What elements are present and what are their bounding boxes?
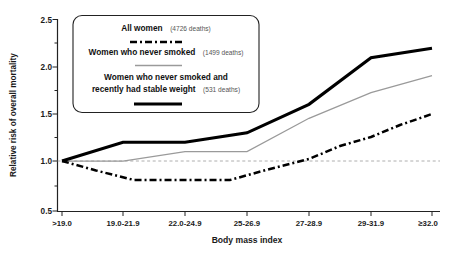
x-axis-ticks (62, 212, 432, 217)
x-tick-label-5: 29-31.9 (358, 219, 385, 228)
chart-legend: All women (4726 deaths) Women who never … (73, 16, 259, 113)
x-tick-label-3: 25-26.9 (234, 219, 261, 228)
legend-label-stable-weight-line1: Women who never smoked and (104, 72, 228, 82)
x-axis-title: Body mass index (212, 235, 283, 245)
series-line-all-women (62, 114, 432, 180)
x-tick-label-2: 22.0-24.9 (169, 219, 203, 228)
legend-count-stable-weight: (531 deaths) (203, 86, 240, 94)
x-tick-label-0: >19.0 (52, 219, 72, 228)
legend-label-stable-weight-line2: recently had stable weight (92, 84, 196, 94)
relative-risk-line-chart: Relative risk of overall mortality 2.5 2… (0, 0, 449, 254)
legend-count-never-smoked: (1499 deaths) (203, 49, 244, 57)
y-tick-label-1-5: 1.5 (41, 110, 53, 119)
legend-count-all-women: (4726 deaths) (170, 25, 211, 33)
y-tick-label-2-0: 2.0 (41, 63, 53, 72)
chart-figure: Relative risk of overall mortality 2.5 2… (0, 0, 449, 254)
y-axis-title: Relative risk of overall mortality (9, 53, 18, 177)
legend-label-never-smoked: Women who never smoked (89, 47, 196, 57)
x-tick-label-6: ≥32.0 (418, 219, 438, 228)
x-tick-label-1: 19.0-21.9 (107, 219, 141, 228)
y-tick-label-1-0: 1.0 (41, 157, 53, 166)
y-axis-ticks (53, 20, 58, 212)
x-tick-label-4: 27-28.9 (296, 219, 323, 228)
y-tick-label-2-5: 2.5 (41, 16, 53, 25)
y-tick-label-0-5: 0.5 (41, 207, 53, 216)
legend-label-all-women: All women (121, 23, 163, 33)
